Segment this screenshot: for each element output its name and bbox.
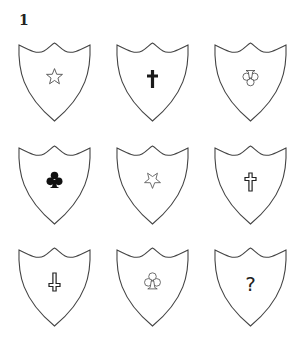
shield-r1-c3	[213, 39, 288, 123]
cross-inverted-outline-icon	[17, 244, 92, 328]
shield-r1-c2	[115, 39, 190, 123]
club-outline-icon	[115, 244, 190, 328]
club-filled-icon	[17, 142, 92, 226]
shield-r2-c1	[17, 142, 92, 226]
shield-r3-c2	[115, 244, 190, 328]
shield-r2-c3	[213, 142, 288, 226]
star-outline-icon	[17, 39, 92, 123]
star-inverted-outline-icon	[115, 142, 190, 226]
shield-r3-c1	[17, 244, 92, 328]
cross-outline-icon	[213, 142, 288, 226]
club-inverted-outline-icon	[213, 39, 288, 123]
shield-r3-c3: ?	[213, 244, 288, 328]
cross-filled-icon	[115, 39, 190, 123]
shield-r2-c2	[115, 142, 190, 226]
puzzle-label: 1	[19, 12, 29, 28]
question-mark: ?	[213, 272, 288, 296]
shield-r1-c1	[17, 39, 92, 123]
